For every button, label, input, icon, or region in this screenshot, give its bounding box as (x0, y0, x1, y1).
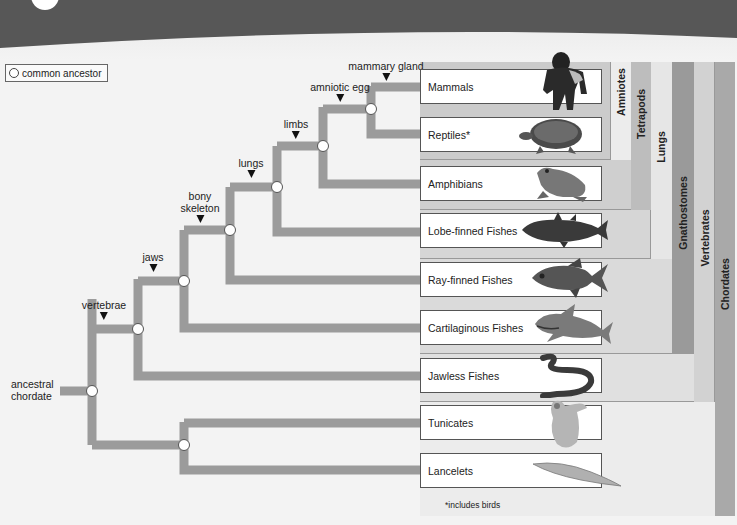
node-lungs (272, 182, 283, 193)
trait-marker-icon (196, 215, 204, 223)
trait-vertebrae: vertebrae (82, 299, 126, 320)
lamprey-icon (537, 352, 599, 398)
ancestral-chordate-label: ancestralchordate (11, 378, 54, 402)
shark-icon (533, 300, 615, 352)
trait-bony-skeleton: bonyskeleton (180, 190, 219, 223)
turtle-icon (518, 114, 590, 156)
node-amniotes (366, 104, 377, 115)
gorilla-icon (535, 50, 595, 112)
node-gnathostomes (179, 276, 190, 287)
node-vertebrates (133, 324, 144, 335)
trait-marker-icon (149, 264, 157, 272)
trait-limbs: limbs (284, 118, 309, 139)
trait-jaws: jaws (142, 251, 163, 272)
lancelet-icon (531, 460, 623, 490)
footnote: *includes birds (445, 500, 500, 510)
trait-marker-icon (292, 131, 300, 139)
frog-icon (533, 163, 591, 203)
trait-amniotic-egg: amniotic egg (310, 81, 370, 102)
trait-mammary-gland: mammary gland (348, 60, 423, 81)
coelacanth-icon (520, 212, 610, 248)
ray-finned-fish-icon (530, 258, 610, 298)
trait-marker-icon (247, 170, 255, 178)
node-tetrapods (318, 141, 329, 152)
trait-marker-icon (382, 73, 390, 81)
trait-marker-icon (336, 94, 344, 102)
trait-lungs: lungs (238, 157, 263, 178)
trait-marker-icon (100, 312, 108, 320)
tunicate-icon (547, 398, 591, 452)
node-root (87, 386, 98, 397)
node-bony (225, 225, 236, 236)
node-tunicate-lancelet (179, 440, 190, 451)
